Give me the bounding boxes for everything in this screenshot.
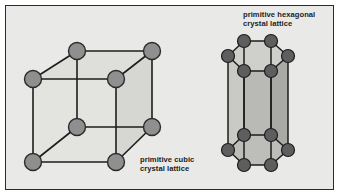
hex-atom-bot-left [222, 144, 235, 157]
cubic-atom-front-top-left [25, 71, 42, 88]
crystal-lattice-figure: primitive cubic crystal lattice primitiv… [0, 0, 339, 195]
hex-atom-top-front-left [238, 65, 251, 78]
caption-primitive-cubic: primitive cubic crystal lattice [140, 155, 194, 173]
hex-atom-bot-front-right [265, 159, 278, 172]
cubic-atom-back-bottom-left [69, 119, 86, 136]
hex-atom-top-back-right [265, 35, 278, 48]
cubic-atom-back-top-right [144, 43, 161, 60]
hex-atom-bot-back-left [238, 129, 251, 142]
hex-atom-bot-back-right [265, 129, 278, 142]
hexagonal-lattice-group [222, 35, 295, 172]
hex-atom-top-right [282, 50, 295, 63]
cubic-atom-front-bottom-left [25, 154, 42, 171]
cubic-atom-front-top-right [108, 71, 125, 88]
caption-primitive-hexagonal: primitive hexagonal crystal lattice [243, 10, 315, 28]
cubic-atom-front-bottom-right [108, 154, 125, 171]
hex-atom-bot-front-left [238, 159, 251, 172]
cubic-atom-back-top-left [69, 43, 86, 60]
hex-atom-top-back-left [238, 35, 251, 48]
hex-atom-bot-right [282, 144, 295, 157]
cubic-atom-back-bottom-right [144, 119, 161, 136]
cubic-lattice-group [25, 43, 161, 171]
hex-atom-top-front-right [265, 65, 278, 78]
hex-atom-top-left [222, 50, 235, 63]
